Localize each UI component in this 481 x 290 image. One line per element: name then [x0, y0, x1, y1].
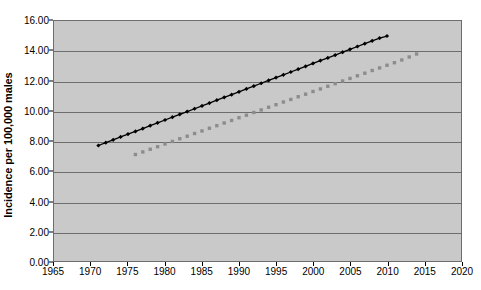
series-marker: [229, 93, 233, 97]
plot-area: [53, 20, 462, 262]
series-marker: [274, 103, 277, 106]
series-marker: [223, 121, 226, 124]
series-marker: [148, 124, 152, 128]
series-marker: [267, 106, 270, 109]
series-marker: [215, 124, 218, 127]
series-marker: [252, 84, 256, 88]
series-marker: [111, 138, 115, 142]
series-marker: [207, 101, 211, 105]
series-marker: [385, 64, 388, 67]
series-marker: [178, 137, 181, 140]
x-axis-tick-label: 1965: [33, 266, 73, 277]
series-marker: [200, 129, 203, 132]
x-axis-tick-mark: [388, 262, 389, 266]
series-marker: [297, 95, 300, 98]
series-marker: [244, 87, 248, 91]
series-marker: [237, 90, 241, 94]
series-marker: [266, 78, 270, 82]
series-marker: [230, 119, 233, 122]
x-axis-tick-label: 2005: [330, 266, 370, 277]
series-marker: [170, 115, 174, 119]
y-axis-tick-label: 4.00: [3, 196, 49, 207]
series-marker: [237, 116, 240, 119]
series-marker: [215, 98, 219, 102]
series-marker: [260, 108, 263, 111]
series-marker: [282, 100, 285, 103]
x-axis-tick-mark: [53, 262, 54, 266]
x-axis-tick-mark: [425, 262, 426, 266]
series-marker: [141, 150, 144, 153]
series-marker: [311, 61, 315, 65]
series-marker: [156, 145, 159, 148]
series-marker: [348, 77, 351, 80]
series-marker: [118, 135, 122, 139]
series-marker: [303, 64, 307, 68]
x-axis-tick-label: 1975: [107, 266, 147, 277]
series-marker: [385, 34, 389, 38]
x-axis-tick-label: 2015: [405, 266, 445, 277]
x-axis-tick-mark: [90, 262, 91, 266]
x-axis-tick-label: 2000: [293, 266, 333, 277]
series-marker: [363, 72, 366, 75]
series-marker: [334, 82, 337, 85]
y-axis-tick-label: 10.00: [3, 105, 49, 116]
series-marker: [304, 93, 307, 96]
x-axis-tick-mark: [127, 262, 128, 266]
series-marker: [363, 42, 367, 46]
series-marker: [193, 132, 196, 135]
series-marker: [326, 56, 330, 60]
x-axis-tick-mark: [462, 262, 463, 266]
series-marker: [141, 126, 145, 130]
series-marker: [340, 50, 344, 54]
x-axis-tick-label: 1985: [182, 266, 222, 277]
x-axis-tick-label: 1980: [145, 266, 185, 277]
series-marker: [259, 81, 263, 85]
series-marker: [163, 118, 167, 122]
y-axis-tick-label: 8.00: [3, 136, 49, 147]
series-marker: [281, 73, 285, 77]
x-axis-tick-label: 2010: [368, 266, 408, 277]
series-marker: [274, 75, 278, 79]
series-observed-incidence: [96, 34, 389, 148]
series-marker: [319, 87, 322, 90]
series-marker: [408, 55, 411, 58]
series-marker: [185, 109, 189, 113]
x-axis-tick-mark: [313, 262, 314, 266]
series-marker: [348, 47, 352, 51]
x-axis-tick-label: 1990: [219, 266, 259, 277]
chart-container: Incidence per 100,000 males 0.002.004.00…: [0, 0, 481, 290]
y-axis-tick-label: 14.00: [3, 45, 49, 56]
series-marker: [341, 79, 344, 82]
series-marker: [355, 44, 359, 48]
series-marker: [104, 141, 108, 145]
series-marker: [208, 127, 211, 130]
series-marker: [163, 142, 166, 145]
y-axis-tick-label: 12.00: [3, 75, 49, 86]
x-axis-tick-mark: [165, 262, 166, 266]
series-marker: [126, 132, 130, 136]
series-marker: [96, 143, 100, 147]
x-axis-tick-label: 2020: [442, 266, 481, 277]
series-marker: [133, 129, 137, 133]
x-axis-tick-mark: [350, 262, 351, 266]
series-marker: [326, 85, 329, 88]
series-marker: [289, 70, 293, 74]
x-axis-tick-mark: [239, 262, 240, 266]
series-marker: [377, 36, 381, 40]
series-marker: [296, 67, 300, 71]
series-marker: [200, 104, 204, 108]
series-marker: [333, 53, 337, 57]
series-marker: [192, 107, 196, 111]
series-marker: [378, 66, 381, 69]
series-marker: [289, 98, 292, 101]
x-axis-tick-label: 1995: [256, 266, 296, 277]
series-marker: [252, 111, 255, 114]
y-axis-tick-label: 2.00: [3, 226, 49, 237]
series-marker: [245, 114, 248, 117]
series-marker: [356, 74, 359, 77]
x-axis-tick-label: 1970: [70, 266, 110, 277]
series-marker: [415, 52, 418, 55]
series-marker: [222, 95, 226, 99]
series-marker: [311, 90, 314, 93]
series-marker: [178, 112, 182, 116]
